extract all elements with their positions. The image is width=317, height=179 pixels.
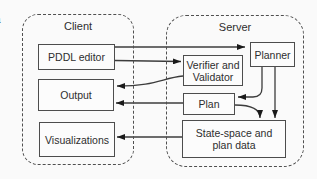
state-space-label-line1: State-space and — [196, 127, 272, 139]
visualizations-label: Visualizations — [45, 134, 109, 146]
plan-box: Plan — [183, 93, 235, 115]
planner-box: Planner — [250, 42, 295, 67]
verifier-validator-label-line2: Validator — [193, 71, 234, 83]
plan-label: Plan — [198, 98, 219, 110]
verifier-validator-box: Verifier and Validator — [183, 55, 243, 86]
state-space-box: State-space and plan data — [182, 120, 286, 158]
diagram-canvas: a Client PDDL editor Output Visualizatio… — [0, 0, 317, 179]
pddl-editor-box: PDDL editor — [38, 44, 115, 70]
state-space-label-line2: plan data — [212, 139, 255, 151]
client-group-title: Client — [23, 20, 133, 32]
output-label: Output — [60, 89, 92, 101]
planner-label: Planner — [254, 49, 290, 61]
server-group-title: Server — [167, 21, 303, 33]
output-box: Output — [38, 79, 114, 111]
verifier-validator-label-line1: Verifier and — [186, 59, 239, 71]
pddl-editor-label: PDDL editor — [48, 51, 105, 63]
visualizations-box: Visualizations — [39, 122, 115, 157]
figure-label: a — [0, 14, 1, 25]
